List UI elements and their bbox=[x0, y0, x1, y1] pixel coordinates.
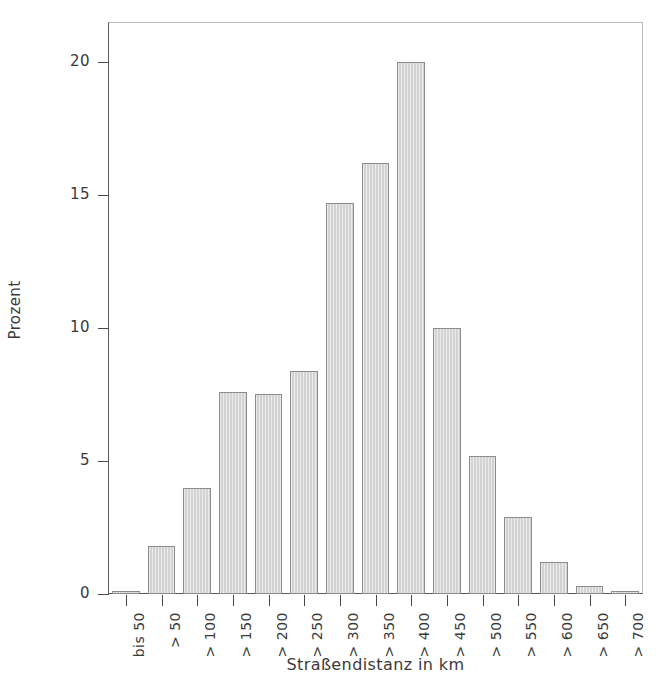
x-tick-label: > 350 bbox=[381, 612, 397, 657]
x-tick-label: bis 50 bbox=[131, 612, 147, 657]
y-axis-title: Prozent bbox=[6, 250, 24, 370]
x-tick-label: > 500 bbox=[488, 612, 504, 657]
x-tick bbox=[233, 595, 234, 606]
bar bbox=[326, 203, 354, 594]
x-tick-label: > 700 bbox=[630, 612, 646, 657]
y-tick-label: 5 bbox=[38, 451, 90, 469]
x-tick bbox=[197, 595, 198, 606]
y-tick-label-wrap: 0 bbox=[28, 594, 90, 595]
y-tick-label-wrap: 5 bbox=[28, 461, 90, 462]
bar bbox=[397, 62, 425, 594]
x-tick-label: > 550 bbox=[523, 612, 539, 657]
x-axis-title: Straßendistanz in km bbox=[108, 655, 643, 674]
y-tick-label: 10 bbox=[38, 318, 90, 336]
x-tick-label: > 600 bbox=[559, 612, 575, 657]
x-tick bbox=[376, 595, 377, 606]
bar bbox=[576, 586, 604, 594]
y-tick-label-wrap: 15 bbox=[28, 195, 90, 196]
bar bbox=[183, 488, 211, 594]
x-tick-label: > 400 bbox=[416, 612, 432, 657]
x-tick-label: > 300 bbox=[345, 612, 361, 657]
bar bbox=[504, 517, 532, 594]
bar-series bbox=[108, 22, 643, 594]
x-tick-label: > 450 bbox=[452, 612, 468, 657]
x-tick bbox=[483, 595, 484, 606]
x-tick-label: > 50 bbox=[167, 612, 183, 648]
x-tick-label: > 650 bbox=[595, 612, 611, 657]
bar bbox=[362, 163, 390, 594]
x-tick bbox=[126, 595, 127, 606]
bar bbox=[469, 456, 497, 594]
x-tick-label: > 150 bbox=[238, 612, 254, 657]
y-tick-label-wrap: 20 bbox=[28, 62, 90, 63]
x-tick bbox=[340, 595, 341, 606]
x-tick bbox=[304, 595, 305, 606]
x-tick bbox=[625, 595, 626, 606]
bar bbox=[219, 392, 247, 594]
x-tick bbox=[411, 595, 412, 606]
bar-chart: Prozent 05101520 bis 50> 50> 100> 150> 2… bbox=[0, 0, 663, 685]
x-tick-label: > 100 bbox=[202, 612, 218, 657]
y-tick-label: 15 bbox=[38, 185, 90, 203]
y-tick-label-wrap: 10 bbox=[28, 328, 90, 329]
bar bbox=[433, 328, 461, 594]
x-tick bbox=[590, 595, 591, 606]
bar bbox=[611, 591, 639, 594]
x-tick bbox=[162, 595, 163, 606]
bar bbox=[255, 394, 283, 594]
y-tick bbox=[98, 594, 109, 595]
bar bbox=[540, 562, 568, 594]
x-tick bbox=[554, 595, 555, 606]
x-tick-label: > 250 bbox=[309, 612, 325, 657]
y-tick-label: 0 bbox=[38, 584, 90, 602]
bar bbox=[148, 546, 176, 594]
x-tick bbox=[447, 595, 448, 606]
x-tick bbox=[269, 595, 270, 606]
x-tick bbox=[518, 595, 519, 606]
y-tick-label: 20 bbox=[38, 52, 90, 70]
bar bbox=[112, 591, 140, 594]
x-tick-label: > 200 bbox=[274, 612, 290, 657]
bar bbox=[290, 371, 318, 594]
